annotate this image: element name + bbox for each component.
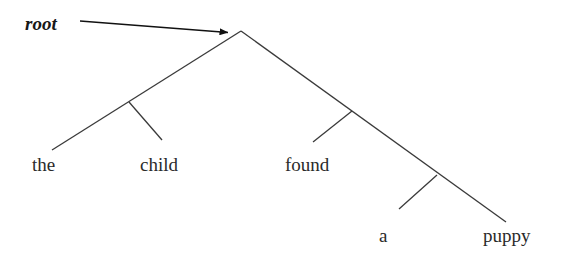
root-arrow-line — [80, 21, 228, 33]
edge-found-branch — [313, 111, 352, 142]
root-annotation-label: root — [25, 14, 57, 33]
edge-a-branch — [399, 175, 437, 209]
tree-lines-svg — [0, 0, 569, 261]
terminal-puppy: puppy — [483, 226, 531, 245]
edge-apex-to-puppy — [241, 31, 506, 222]
root-pointer-arrow — [80, 21, 228, 33]
terminal-child: child — [140, 155, 178, 174]
tree-edges — [52, 31, 506, 222]
terminal-a: a — [379, 226, 387, 245]
tree-diagram: root the child found a puppy — [0, 0, 569, 261]
terminal-the: the — [32, 155, 55, 174]
edge-child-branch — [129, 102, 162, 140]
edge-apex-to-the — [52, 31, 241, 150]
terminal-found: found — [285, 155, 329, 174]
